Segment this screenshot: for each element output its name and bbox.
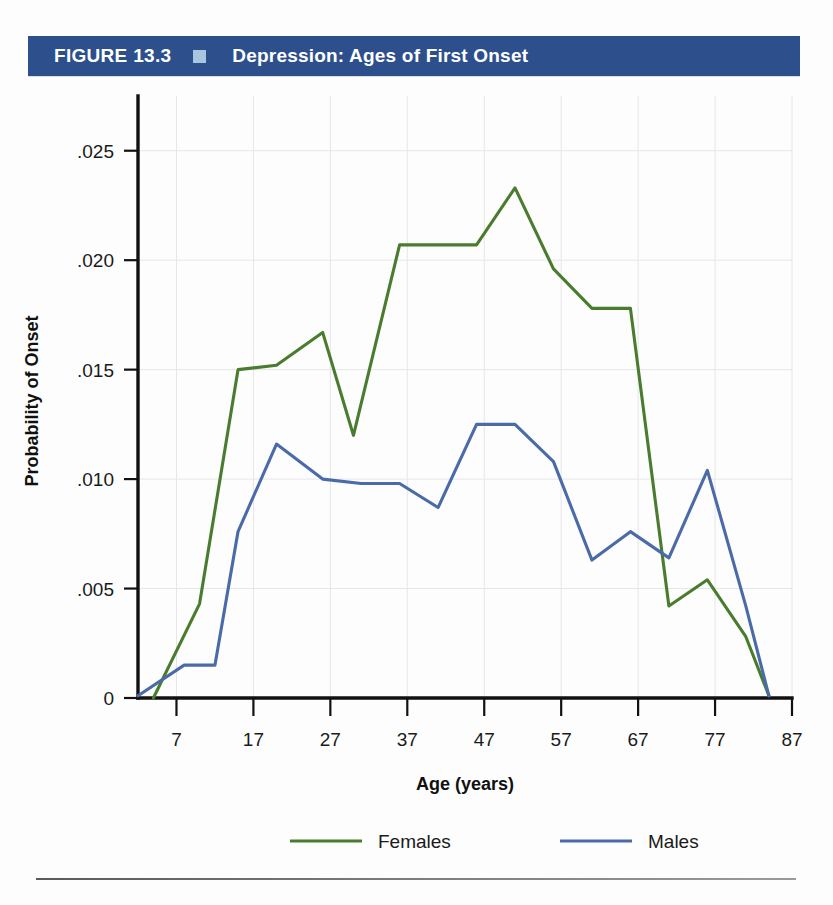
x-tick-label: 37 xyxy=(397,729,418,750)
figure-container: FIGURE 13.3 Depression: Ages of First On… xyxy=(0,0,833,905)
y-tick-labels-group: 0.005.010.015.020.025 xyxy=(77,141,114,709)
y-tick-label: .020 xyxy=(77,250,114,271)
y-tick-label: 0 xyxy=(103,688,114,709)
series-line-males xyxy=(138,424,769,695)
blue-square-icon xyxy=(193,50,206,63)
figure-header-band: FIGURE 13.3 Depression: Ages of First On… xyxy=(28,36,800,76)
y-tick-label: .015 xyxy=(77,360,114,381)
x-tick-label: 27 xyxy=(320,729,341,750)
y-axis-title: Probability of Onset xyxy=(22,315,42,486)
axis-lines-group xyxy=(138,96,792,698)
x-tick-labels-group: 71727374757677787 xyxy=(171,729,802,750)
x-tick-label: 7 xyxy=(171,729,182,750)
y-tick-label: .010 xyxy=(77,469,114,490)
gridlines-group xyxy=(138,96,792,698)
legend-label-females: Females xyxy=(378,831,451,852)
x-tick-label: 87 xyxy=(781,729,802,750)
x-tick-label: 47 xyxy=(474,729,495,750)
data-series-group xyxy=(138,188,769,698)
series-line-females xyxy=(153,188,769,698)
y-tick-label: .025 xyxy=(77,141,114,162)
figure-number-label: FIGURE 13.3 xyxy=(54,45,171,67)
x-tick-label: 17 xyxy=(243,729,264,750)
y-tick-label: .005 xyxy=(77,579,114,600)
footer-divider xyxy=(36,878,796,880)
chart-plot-area: 0.005.010.015.020.025 71727374757677787 … xyxy=(0,76,833,836)
figure-title-label: Depression: Ages of First Onset xyxy=(232,45,528,67)
chart-legend: FemalesMales xyxy=(290,831,699,852)
x-axis-title: Age (years) xyxy=(416,774,514,794)
x-tick-label: 67 xyxy=(628,729,649,750)
legend-label-males: Males xyxy=(648,831,699,852)
tick-marks-group xyxy=(124,151,792,716)
x-tick-label: 77 xyxy=(704,729,725,750)
line-chart-svg: 0.005.010.015.020.025 71727374757677787 … xyxy=(0,76,833,866)
x-tick-label: 57 xyxy=(551,729,572,750)
